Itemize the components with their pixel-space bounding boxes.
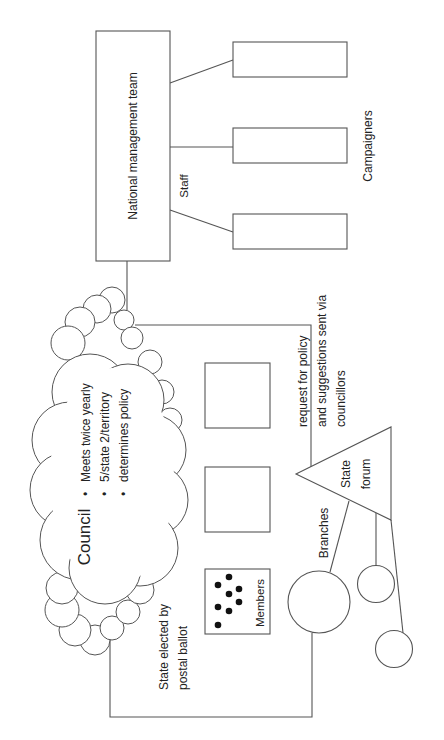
org-structure-diagram: National management team Staff Campaigne… bbox=[0, 0, 444, 740]
state-forum-line-2: forum bbox=[359, 459, 373, 490]
state-forum-line-1: State bbox=[339, 460, 353, 488]
bullet-2-glyph: • bbox=[98, 492, 112, 496]
policy-flow-line-2: and suggestions sent via bbox=[315, 295, 329, 427]
branches-label: Branches bbox=[317, 508, 331, 559]
council-bullets: • Meets twice yearly • 5/state 2/territo… bbox=[79, 383, 131, 496]
staff-label: Staff bbox=[178, 173, 190, 197]
policy-flow-line-3: councillors bbox=[334, 370, 348, 427]
staff-box-2 bbox=[233, 128, 347, 163]
council-bullet-2: 5/state 2/territory bbox=[98, 392, 112, 482]
forum-to-branch-1-line bbox=[330, 501, 349, 572]
square-2 bbox=[205, 467, 270, 532]
bullet-1-glyph: • bbox=[79, 492, 93, 496]
branch-circle-small-2 bbox=[376, 631, 413, 668]
policy-flow-line-1: request for policy bbox=[296, 336, 310, 427]
staff-box-3 bbox=[233, 214, 347, 249]
campaigners-label: Campaigners bbox=[361, 110, 375, 181]
staff-box-1 bbox=[233, 42, 347, 77]
branch-circle-small-1 bbox=[358, 566, 395, 603]
council-title: Council bbox=[75, 509, 94, 566]
square-1 bbox=[205, 363, 270, 428]
election-text-line-1: State elected by bbox=[157, 604, 171, 690]
council-to-branches-line bbox=[110, 633, 312, 717]
council-bullet-3: determines policy bbox=[117, 389, 131, 482]
members-label: Members bbox=[254, 579, 266, 627]
council-bullet-1: Meets twice yearly bbox=[79, 383, 93, 482]
national-management-team-label: National management team bbox=[126, 72, 140, 219]
bullet-3-glyph: • bbox=[117, 492, 131, 496]
nmt-to-staff-box-1-line bbox=[170, 60, 233, 83]
branch-circle-large bbox=[288, 571, 350, 633]
election-text-line-2: postal ballot bbox=[176, 625, 190, 690]
nmt-to-staff-box-3-line bbox=[170, 210, 233, 232]
